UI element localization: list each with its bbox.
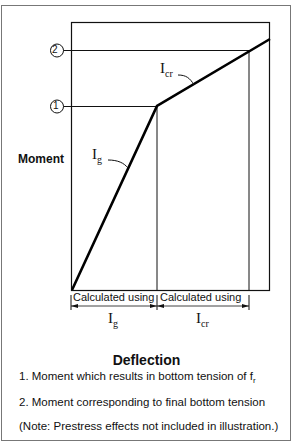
icr-leader [178,75,194,85]
marker-1-label: 1 [53,100,59,111]
y-axis-label: Moment [18,152,64,166]
region-2-symbol: Icr [196,310,209,329]
icr-curve-label: Icr [160,60,173,79]
x-axis-title: Deflection [0,352,293,368]
note-3: (Note: Prestress effects not included in… [19,420,278,432]
region-2-text: Calculated using [160,291,241,303]
region-1-symbol: Ig [108,310,118,329]
note-2: 2. Moment corresponding to final bottom … [19,396,265,408]
ig-leader [108,160,128,168]
region-1-text: Calculated using [73,291,154,303]
ig-curve-label: Ig [92,146,102,165]
note-1: 1. Moment which results in bottom tensio… [19,370,256,385]
marker-2-label: 2 [52,44,58,55]
